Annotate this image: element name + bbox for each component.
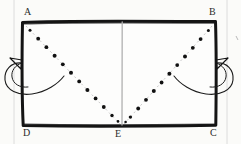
diagram-page: A B C D E [0, 0, 241, 144]
fold-dot [117, 120, 120, 123]
vertex-label-e: E [115, 129, 121, 139]
fold-dot [94, 97, 98, 101]
fold-dot [77, 80, 81, 84]
fold-dot [160, 81, 164, 85]
vertex-label-c: C [210, 128, 217, 138]
fold-dot [152, 89, 156, 93]
fold-dot [199, 37, 203, 41]
rectangle-abcd [22, 21, 216, 126]
fold-dot [129, 115, 132, 118]
vertex-label-d: D [23, 128, 30, 138]
fold-dot [110, 114, 113, 117]
fold-dot [61, 62, 65, 66]
fold-dot [53, 54, 57, 58]
fold-dot [102, 105, 106, 109]
right-edge-tick-icon [236, 36, 238, 40]
fold-dot [29, 29, 32, 32]
fold-dot [183, 54, 187, 58]
diagram-canvas [0, 0, 241, 144]
vertex-label-b: B [209, 7, 216, 17]
fold-dot [167, 72, 171, 76]
fold-dot [191, 46, 195, 50]
rectangle-outline [22, 21, 216, 126]
fold-dot [136, 107, 140, 111]
fold-dot [85, 88, 89, 92]
fold-dot [36, 37, 40, 41]
fold-dot [175, 63, 179, 67]
fold-dot [69, 71, 73, 75]
fold-dot [45, 45, 49, 49]
fold-dot [207, 29, 210, 32]
fold-dot [124, 121, 127, 124]
fold-dot [144, 98, 148, 102]
vertex-label-a: A [24, 7, 31, 17]
